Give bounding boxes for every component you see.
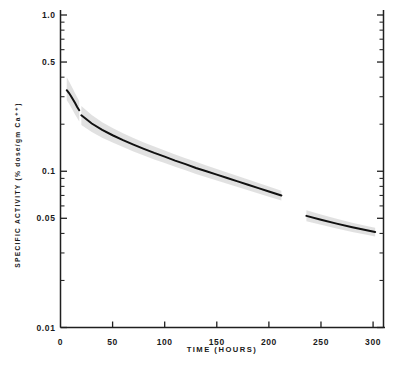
x-tick-label-100: 100 xyxy=(157,337,173,347)
x-tick-label-250: 250 xyxy=(313,337,329,347)
x-tick-label-50: 50 xyxy=(107,337,118,347)
x-tick-label-200: 200 xyxy=(261,337,277,347)
figure-background xyxy=(0,0,397,365)
origin-label: 0 xyxy=(58,337,63,347)
y-tick-label-0: 1.0 xyxy=(42,10,56,20)
y-tick-label-4: 0.01 xyxy=(37,323,56,333)
specific-activity-decay-chart: 1.00.50.10.050.0150100150200250300 TIME … xyxy=(0,0,397,365)
y-tick-label-1: 0.5 xyxy=(42,57,56,67)
y-axis-title: SPECIFIC ACTIVITY (% dose/gm Ca⁺⁺) xyxy=(14,102,22,267)
x-tick-label-300: 300 xyxy=(365,337,381,347)
y-tick-label-3: 0.05 xyxy=(37,213,56,223)
y-tick-label-2: 0.1 xyxy=(42,166,56,176)
x-axis-title: TIME (HOURS) xyxy=(187,345,258,354)
